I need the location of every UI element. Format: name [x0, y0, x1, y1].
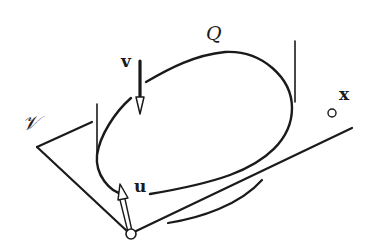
- lower-curve: [168, 180, 262, 223]
- diagram-canvas: [0, 0, 379, 246]
- arrow-v-head: [136, 97, 144, 114]
- ellipse-q-upper: [146, 52, 292, 194]
- arrow-u-head: [118, 184, 128, 200]
- label-x: x: [339, 86, 349, 103]
- plane-right-edge: [134, 128, 352, 232]
- label-q: Q: [206, 24, 222, 43]
- label-plane-v: 𝒱: [22, 113, 39, 133]
- label-u: u: [134, 178, 146, 195]
- origin-point: [126, 229, 136, 239]
- plane-upper-left-edge: [37, 122, 92, 147]
- point-x: [328, 109, 336, 117]
- ellipse-q-left: [97, 98, 131, 194]
- label-v: v: [121, 53, 131, 70]
